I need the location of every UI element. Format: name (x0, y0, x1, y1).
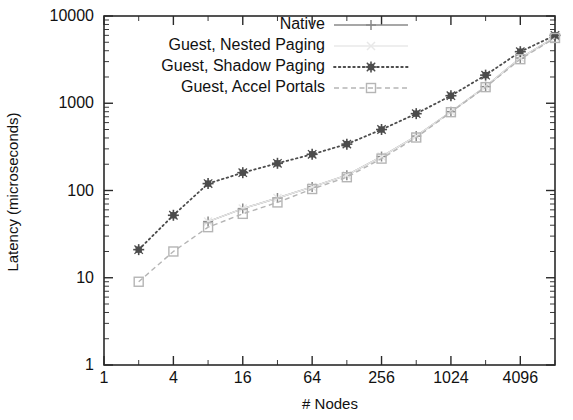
data-point (341, 139, 352, 150)
legend-label: Guest, Nested Paging (168, 36, 325, 53)
legend-label: Guest, Shadow Paging (161, 57, 325, 74)
y-tick-label: 100 (67, 182, 94, 199)
x-tick-label: 64 (303, 369, 321, 386)
y-tick-label: 10000 (50, 7, 95, 24)
y-axis-title: Latency (microseconds) (4, 112, 21, 271)
legend-label: Guest, Accel Portals (181, 78, 325, 95)
data-point (480, 70, 491, 81)
data-point (307, 149, 318, 160)
legend-label: Native (280, 15, 325, 32)
legend-sample-marker (366, 62, 377, 73)
y-tick-label: 1 (85, 356, 94, 373)
x-tick-label: 4096 (503, 369, 539, 386)
data-point (237, 167, 248, 178)
data-point (133, 244, 144, 255)
data-point (411, 108, 422, 119)
x-tick-label: 1 (100, 369, 109, 386)
latency-vs-nodes-chart: 110100100010000 14166425610244096 # Node… (0, 0, 573, 420)
y-tick-label: 10 (76, 269, 94, 286)
x-tick-label: 4 (169, 369, 178, 386)
data-point (445, 90, 456, 101)
x-axis-title: # Nodes (302, 395, 358, 412)
data-point (168, 210, 179, 221)
data-point (376, 124, 387, 135)
data-point (203, 178, 214, 189)
x-tick-label: 256 (368, 369, 395, 386)
chart-figure: 110100100010000 14166425610244096 # Node… (0, 0, 573, 420)
x-tick-label: 1024 (433, 369, 469, 386)
x-tick-label: 16 (234, 369, 252, 386)
data-point (272, 158, 283, 169)
y-tick-label: 1000 (58, 94, 94, 111)
